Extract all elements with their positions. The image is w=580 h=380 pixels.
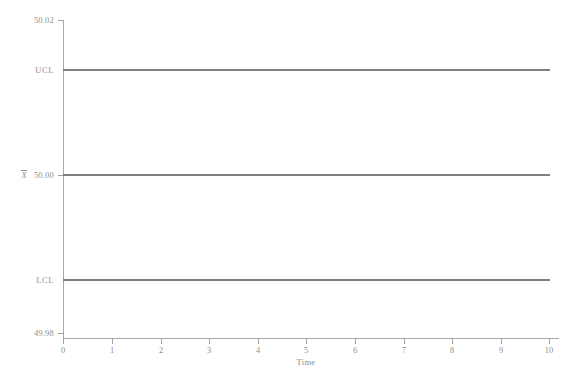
x-bar-symbol: X (21, 170, 27, 180)
x-tick-3 (209, 339, 210, 344)
x-axis-title: Time (276, 357, 336, 367)
y-axis-line (63, 20, 64, 338)
y-tick-49-98 (58, 333, 64, 334)
x-tick-2 (161, 339, 162, 344)
y-axis-label-top: 50.02 (34, 15, 54, 25)
y-axis-label-bottom: 49.98 (34, 328, 54, 338)
control-chart: 50.02 UCL X50.00 LCL 49.98 0 1 2 3 4 5 6… (0, 0, 580, 380)
x-axis-label-2: 2 (151, 345, 171, 355)
y-axis-label-lcl: LCL (36, 275, 54, 285)
x-axis-label-5: 5 (296, 345, 316, 355)
x-axis-label-9: 9 (491, 345, 511, 355)
x-tick-1 (112, 339, 113, 344)
x-tick-8 (452, 339, 453, 344)
x-axis-label-8: 8 (442, 345, 462, 355)
center-line-value: 50.00 (34, 170, 54, 180)
upper-control-limit-line (63, 69, 550, 71)
x-axis-label-10: 10 (539, 345, 559, 355)
x-tick-5 (306, 339, 307, 344)
x-tick-0 (63, 339, 64, 344)
x-tick-7 (404, 339, 405, 344)
x-axis-line (63, 338, 559, 339)
lower-control-limit-line (63, 279, 550, 281)
x-axis-label-7: 7 (394, 345, 414, 355)
x-axis-label-1: 1 (102, 345, 122, 355)
center-line (63, 174, 550, 176)
x-tick-9 (501, 339, 502, 344)
x-axis-label-6: 6 (345, 345, 365, 355)
plot-area (64, 20, 550, 338)
x-tick-4 (258, 339, 259, 344)
x-tick-10 (549, 339, 550, 344)
x-axis-label-4: 4 (248, 345, 268, 355)
x-axis-label-0: 0 (53, 345, 73, 355)
x-tick-6 (355, 339, 356, 344)
x-axis-label-3: 3 (199, 345, 219, 355)
y-tick-50-02 (58, 20, 64, 21)
y-axis-label-center: X50.00 (21, 170, 54, 180)
y-axis-label-ucl: UCL (35, 65, 54, 75)
